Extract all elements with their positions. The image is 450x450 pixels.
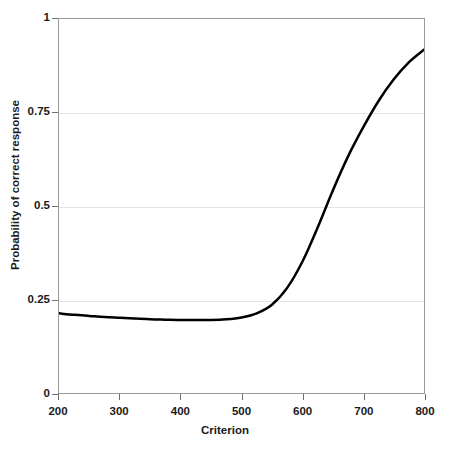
series-path <box>59 50 424 320</box>
y-tick-mark <box>52 112 58 113</box>
x-tick-label: 400 <box>171 406 190 418</box>
x-tick-label: 500 <box>232 406 251 418</box>
x-axis-title: Criterion <box>0 424 450 436</box>
plot-area <box>58 18 425 394</box>
x-tick-label: 200 <box>48 406 67 418</box>
x-axis-tick-labels: 200300400500600700800 <box>0 400 450 420</box>
x-tick-label: 700 <box>354 406 373 418</box>
line-curve <box>59 19 424 393</box>
y-tick-mark <box>52 18 58 19</box>
x-tick-label: 800 <box>415 406 434 418</box>
x-tick-label: 300 <box>110 406 129 418</box>
y-axis-title: Probability of correct response <box>9 0 31 410</box>
y-tick-mark <box>52 206 58 207</box>
y-tick-mark <box>52 300 58 301</box>
x-tick-label: 600 <box>293 406 312 418</box>
chart-figure: 00.250.50.751 200300400500600700800 Crit… <box>0 0 450 450</box>
